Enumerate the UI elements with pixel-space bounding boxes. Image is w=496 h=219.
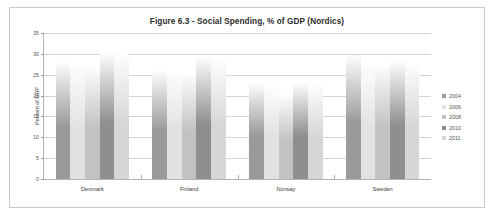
- chart-title: Figure 6.3 - Social Spending, % of GDP (…: [10, 17, 484, 26]
- bar[interactable]: [308, 85, 323, 179]
- bar-groups: DenmarkFinlandNorwaySweden: [44, 33, 431, 179]
- y-tick-label: 5: [36, 155, 39, 161]
- bar-group: Finland: [141, 33, 238, 179]
- legend-label: 2008: [449, 114, 461, 120]
- legend-label: 2011: [449, 135, 461, 141]
- bar[interactable]: [196, 57, 211, 179]
- bar[interactable]: [182, 74, 197, 179]
- x-tick-label: Norway: [238, 186, 335, 192]
- x-tick-label: Sweden: [334, 186, 431, 192]
- bar[interactable]: [361, 65, 376, 179]
- bar[interactable]: [85, 67, 100, 179]
- legend-item-2008[interactable]: 2008: [442, 114, 488, 120]
- legend: 20042006200820102011: [442, 93, 488, 141]
- bars: [152, 33, 226, 179]
- legend-swatch-icon: [442, 105, 446, 109]
- bar[interactable]: [249, 83, 264, 179]
- bar-group: Norway: [238, 33, 335, 179]
- x-tick-label: Finland: [141, 186, 238, 192]
- y-tick-mark: [41, 179, 44, 180]
- legend-swatch-icon: [442, 136, 446, 140]
- x-tick-label: Denmark: [44, 186, 141, 192]
- chart-frame: Figure 6.3 - Social Spending, % of GDP (…: [9, 7, 485, 208]
- legend-label: 2004: [449, 93, 461, 99]
- bar[interactable]: [293, 83, 308, 179]
- y-tick-label: 30: [33, 51, 39, 57]
- bar[interactable]: [167, 71, 182, 179]
- bar[interactable]: [346, 55, 361, 179]
- bar[interactable]: [114, 54, 129, 179]
- bar[interactable]: [264, 86, 279, 179]
- bar[interactable]: [390, 61, 405, 179]
- y-tick-label: 35: [33, 30, 39, 36]
- y-tick-label: 25: [33, 72, 39, 78]
- bar[interactable]: [152, 71, 167, 179]
- legend-swatch-icon: [442, 115, 446, 119]
- bar[interactable]: [375, 65, 390, 179]
- bar[interactable]: [56, 62, 71, 179]
- bar[interactable]: [405, 64, 420, 179]
- bar-group: Sweden: [334, 33, 431, 179]
- y-tick-label: 0: [36, 176, 39, 182]
- bar[interactable]: [100, 53, 115, 179]
- legend-item-2011[interactable]: 2011: [442, 135, 488, 141]
- legend-item-2006[interactable]: 2006: [442, 104, 488, 110]
- y-tick-label: 10: [33, 134, 39, 140]
- legend-item-2010[interactable]: 2010: [442, 125, 488, 131]
- legend-swatch-icon: [442, 94, 446, 98]
- bar[interactable]: [279, 95, 294, 179]
- bars: [346, 33, 420, 179]
- y-tick-label: 15: [33, 113, 39, 119]
- legend-label: 2006: [449, 104, 461, 110]
- y-tick-label: 20: [33, 93, 39, 99]
- bars: [249, 33, 323, 179]
- bars: [56, 33, 130, 179]
- bar[interactable]: [211, 60, 226, 179]
- legend-item-2004[interactable]: 2004: [442, 93, 488, 99]
- legend-swatch-icon: [442, 126, 446, 130]
- plot-area: Percent of GDP 05101520253035 DenmarkFin…: [43, 33, 431, 180]
- bar[interactable]: [70, 65, 85, 179]
- bar-group: Denmark: [44, 33, 141, 179]
- legend-label: 2010: [449, 125, 461, 131]
